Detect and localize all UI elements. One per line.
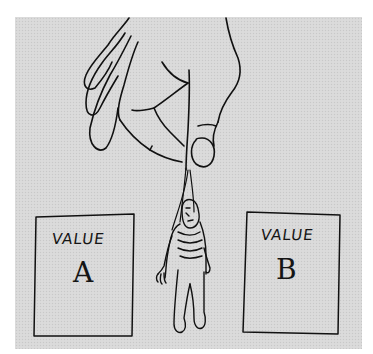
- hand-and-puppet-drawing: [0, 0, 373, 354]
- card-a-label: VALUE: [51, 230, 106, 248]
- card-a-letter: A: [73, 256, 93, 289]
- hand-icon: [84, 18, 240, 170]
- puppet-figure-icon: [157, 199, 211, 332]
- card-b-letter: B: [276, 253, 297, 286]
- card-b-label: VALUE: [260, 226, 315, 244]
